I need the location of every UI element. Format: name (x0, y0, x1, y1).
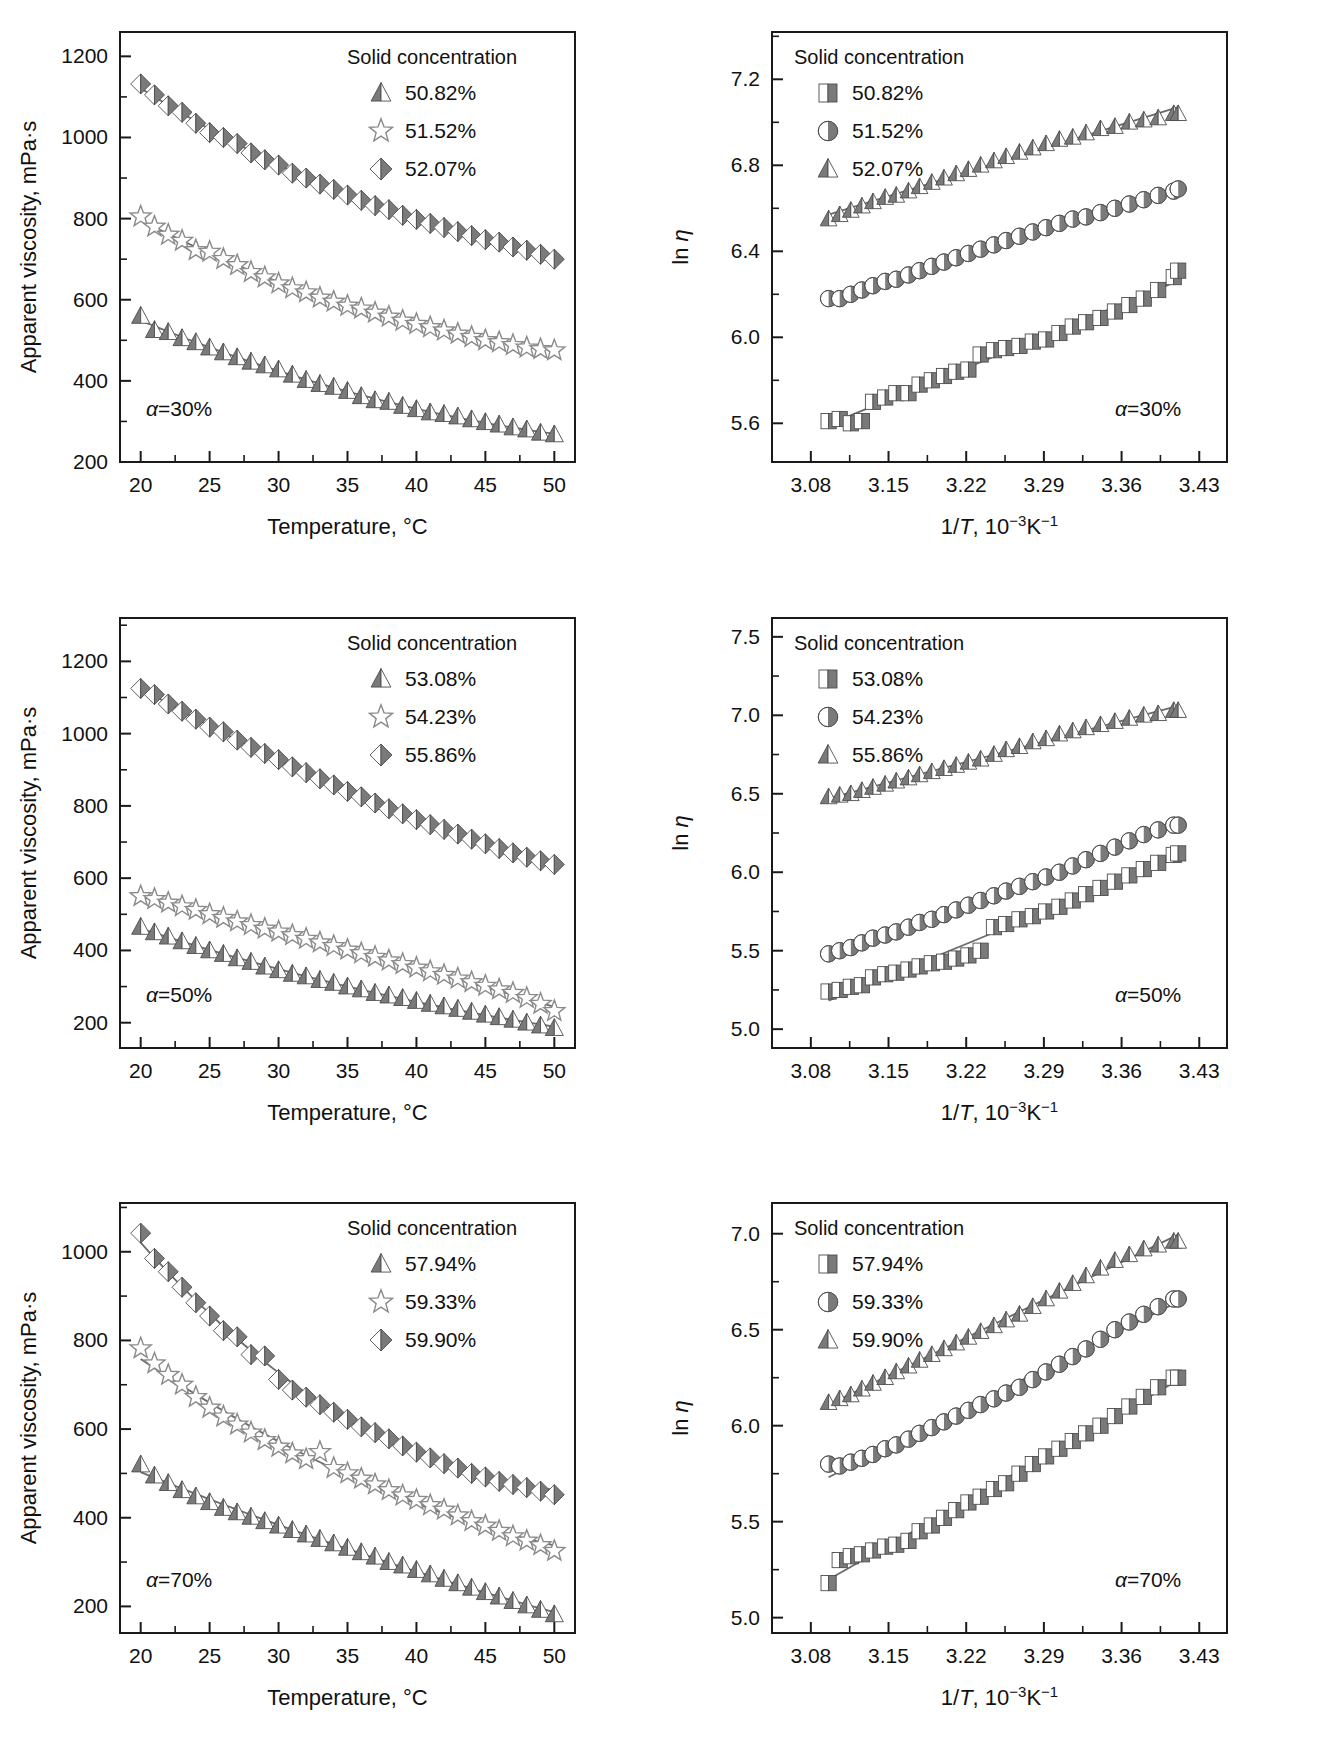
legend: Solid concentration53.08%54.23%55.86% (794, 632, 964, 766)
legend-item[interactable]: 52.07% (370, 157, 476, 180)
legend-item[interactable]: 59.90% (818, 1328, 923, 1351)
x-axis-title: 1/T, 10−3K−1 (941, 512, 1058, 540)
y-tick-label: 400 (73, 938, 108, 961)
legend-item[interactable]: 59.90% (370, 1328, 476, 1351)
alpha-label: α=70% (1115, 1568, 1181, 1591)
x-tick-label: 3.29 (1023, 1644, 1064, 1667)
legend-item-label: 57.94% (852, 1252, 923, 1275)
legend-item[interactable]: 55.86% (370, 743, 476, 766)
x-axis-ticks: 3.083.153.223.293.363.43 (790, 1622, 1219, 1667)
x-tick-label: 3.15 (868, 473, 909, 496)
y-tick-label: 200 (73, 1594, 108, 1617)
alpha-label: α=30% (1115, 397, 1181, 420)
trend-line (141, 1243, 555, 1490)
legend-item-label: 50.82% (405, 81, 476, 104)
y-tick-label: 600 (73, 1417, 108, 1440)
figure-root: 2004006008001000120020253035404550Solid … (0, 0, 1334, 1761)
y-tick-label: 7.0 (731, 703, 760, 726)
x-axis-title: 1/T, 10−3K−1 (941, 1098, 1058, 1126)
x-tick-label: 3.29 (1023, 473, 1064, 496)
legend-item[interactable]: 57.94% (371, 1252, 476, 1275)
x-tick-label: 3.15 (868, 1059, 909, 1082)
x-tick-label: 3.43 (1179, 1059, 1220, 1082)
legend-item[interactable]: 54.23% (818, 705, 923, 728)
series-57.94% (821, 1370, 1186, 1591)
legend-item[interactable]: 50.82% (819, 81, 923, 104)
legend-item[interactable]: 52.07% (818, 157, 923, 180)
alpha-annotation: α=50% (146, 983, 212, 1006)
y-tick-label: 1000 (61, 125, 108, 148)
legend-item[interactable]: 59.33% (818, 1290, 923, 1313)
x-axis-title: Temperature, °C (267, 1100, 428, 1125)
legend-item[interactable]: 59.33% (369, 1290, 476, 1313)
legend-item[interactable]: 54.23% (369, 705, 476, 728)
y-axis-ticks: 5.66.06.46.87.2 (731, 36, 783, 434)
x-tick-label: 35 (336, 1644, 359, 1667)
x-tick-label: 25 (198, 1059, 221, 1082)
y-axis-ticks: 5.05.56.06.57.0 (731, 1222, 783, 1629)
x-tick-label: 25 (198, 1644, 221, 1667)
x-tick-label: 35 (336, 1059, 359, 1082)
legend-item[interactable]: 53.08% (819, 667, 923, 690)
y-tick-label: 6.5 (731, 782, 760, 805)
legend-item[interactable]: 50.82% (371, 81, 476, 104)
x-tick-label: 30 (267, 1644, 290, 1667)
legend-title: Solid concentration (347, 46, 517, 68)
y-tick-label: 7.2 (731, 67, 760, 90)
legend-item-label: 59.33% (852, 1290, 923, 1313)
x-tick-label: 20 (129, 473, 152, 496)
trend-line (141, 688, 555, 865)
y-tick-label: 6.8 (731, 153, 760, 176)
y-tick-label: 800 (73, 794, 108, 817)
y-axis-ticks: 5.05.56.06.57.07.5 (731, 625, 783, 1040)
y-tick-label: 6.0 (731, 325, 760, 348)
y-tick-label: 6.5 (731, 1318, 760, 1341)
x-tick-label: 50 (543, 473, 566, 496)
trend-line (141, 88, 555, 255)
x-tick-label: 3.22 (946, 1644, 987, 1667)
legend-item-label: 53.08% (405, 667, 476, 690)
alpha-annotation: α=30% (146, 397, 212, 420)
x-tick-label: 45 (474, 1644, 497, 1667)
y-tick-label: 200 (73, 1011, 108, 1034)
series-50.82% (132, 307, 564, 442)
x-tick-label: 3.36 (1101, 1644, 1142, 1667)
series-59.33% (130, 1337, 565, 1560)
x-tick-label: 30 (267, 1059, 290, 1082)
x-tick-label: 3.08 (790, 1644, 831, 1667)
legend-item-label: 59.90% (852, 1328, 923, 1351)
y-tick-label: 5.0 (731, 1606, 760, 1629)
legend-title: Solid concentration (794, 46, 964, 68)
y-axis-title: Apparent viscosity, mPa·s (16, 121, 41, 374)
y-tick-label: 6.4 (731, 239, 761, 262)
y-tick-label: 5.5 (731, 1510, 760, 1533)
x-tick-label: 3.08 (790, 1059, 831, 1082)
alpha-annotation: α=70% (146, 1568, 212, 1591)
x-tick-label: 35 (336, 473, 359, 496)
legend-item[interactable]: 51.52% (818, 119, 923, 142)
legend-item-label: 54.23% (405, 705, 476, 728)
alpha-label: α=70% (146, 1568, 212, 1591)
y-tick-label: 400 (73, 1506, 108, 1529)
legend-title: Solid concentration (794, 1217, 964, 1239)
chart-panel-panel-1a: 2004006008001000120020253035404550Solid … (16, 32, 575, 539)
series-55.86% (131, 678, 565, 874)
series-54.23% (820, 817, 1186, 962)
x-tick-label: 40 (405, 473, 428, 496)
x-tick-label: 25 (198, 473, 221, 496)
legend-item-label: 51.52% (405, 119, 476, 142)
x-axis-title: Temperature, °C (267, 514, 428, 539)
legend-item[interactable]: 51.52% (369, 119, 476, 142)
y-tick-label: 6.0 (731, 1414, 760, 1437)
y-tick-label: 600 (73, 866, 108, 889)
x-tick-label: 45 (474, 473, 497, 496)
chart-panel-panel-3a: 200400600800100020253035404550Solid conc… (16, 1203, 575, 1710)
y-tick-label: 1200 (61, 649, 108, 672)
x-tick-label: 3.08 (790, 473, 831, 496)
x-tick-label: 3.43 (1179, 473, 1220, 496)
legend-item-label: 55.86% (852, 743, 923, 766)
legend-item[interactable]: 53.08% (371, 667, 476, 690)
series-53.08% (821, 846, 1186, 1001)
legend-item[interactable]: 55.86% (818, 743, 923, 766)
legend-item[interactable]: 57.94% (819, 1252, 923, 1275)
